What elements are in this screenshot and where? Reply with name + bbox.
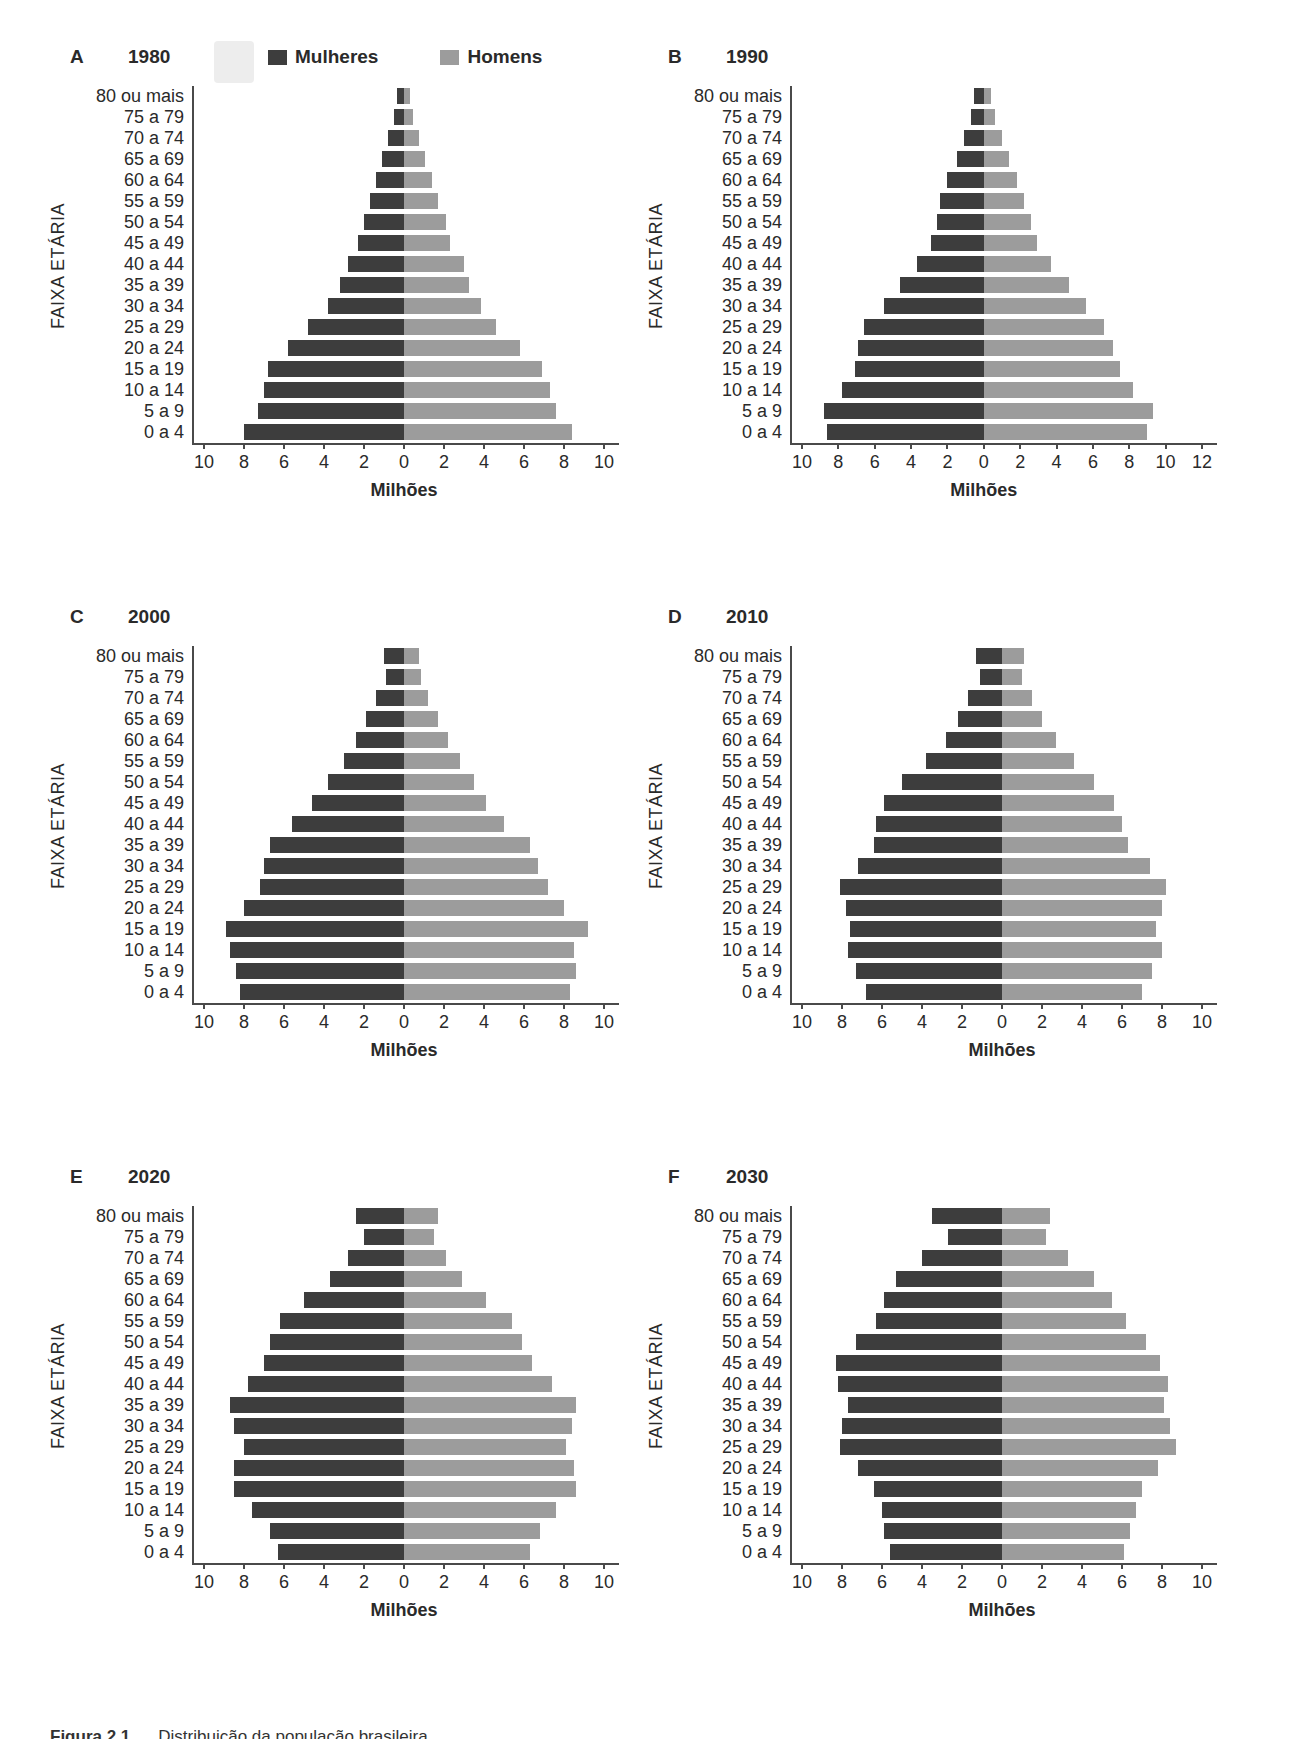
legend-swatch-mulheres: [268, 50, 287, 65]
female-bar: [340, 277, 404, 293]
age-tick-label: 55 a 59: [674, 751, 782, 772]
age-tick-label: 35 a 39: [76, 1395, 184, 1416]
x-tick-label: 2: [426, 1572, 462, 1593]
male-bar: [1002, 690, 1032, 706]
plot-area-E: 1086420246810Milhões: [192, 1206, 619, 1565]
female-bar: [864, 319, 984, 335]
x-tick: [1019, 443, 1021, 449]
x-tick: [921, 1003, 923, 1009]
male-bar: [404, 298, 481, 314]
age-tick-label: 75 a 79: [76, 667, 184, 688]
x-tick-label: 10: [586, 452, 622, 473]
x-tick-label: 2: [944, 1012, 980, 1033]
male-bar: [404, 382, 550, 398]
age-tick-label: 80 ou mais: [674, 86, 782, 107]
age-tick-label: 50 a 54: [76, 1332, 184, 1353]
female-bar: [226, 921, 404, 937]
x-tick: [1201, 443, 1203, 449]
age-tick-label: 60 a 64: [674, 730, 782, 751]
male-bar: [404, 1355, 532, 1371]
panel-year-E: 2020: [128, 1166, 198, 1188]
x-tick-label: 8: [226, 452, 262, 473]
x-tick-label: 6: [266, 1012, 302, 1033]
age-tick-label: 70 a 74: [674, 688, 782, 709]
age-tick-label: 10 a 14: [674, 940, 782, 961]
male-bar: [404, 1376, 552, 1392]
female-bar: [356, 1208, 404, 1224]
age-tick-label: 20 a 24: [76, 1458, 184, 1479]
age-tick-label: 60 a 64: [674, 170, 782, 191]
panel-year-F: 2030: [726, 1166, 796, 1188]
x-tick-label: 0: [386, 452, 422, 473]
x-tick: [1081, 1003, 1083, 1009]
x-tick: [1001, 1563, 1003, 1569]
x-tick: [363, 1003, 365, 1009]
age-tick-label: 45 a 49: [76, 233, 184, 254]
age-labels: 80 ou mais75 a 7970 a 7465 a 6960 a 6455…: [76, 646, 192, 1005]
x-tick-label: 8: [546, 1012, 582, 1033]
x-tick-label: 10: [1148, 452, 1184, 473]
age-tick-label: 60 a 64: [76, 1290, 184, 1311]
scan-artifact: [214, 41, 254, 83]
male-bar: [1002, 648, 1024, 664]
male-bar: [404, 879, 548, 895]
y-axis-title: FAIXA ETÁRIA: [646, 1322, 667, 1448]
male-bar: [984, 88, 991, 104]
x-tick-label: 10: [1184, 1012, 1220, 1033]
panel-A: A1980MulheresHomensFAIXA ETÁRIA80 ou mai…: [50, 42, 642, 548]
x-tick-label: 6: [864, 1572, 900, 1593]
age-tick-label: 65 a 69: [674, 149, 782, 170]
age-tick-label: 10 a 14: [76, 380, 184, 401]
age-tick-label: 5 a 9: [674, 401, 782, 422]
x-tick: [363, 1563, 365, 1569]
female-bar: [931, 235, 984, 251]
age-tick-label: 0 a 4: [76, 422, 184, 443]
male-bar: [404, 1418, 572, 1434]
panel-letter-D: D: [668, 606, 726, 628]
x-tick: [563, 1003, 565, 1009]
x-tick: [483, 1003, 485, 1009]
male-bar: [984, 277, 1069, 293]
female-bar: [234, 1481, 404, 1497]
male-bar: [1002, 1208, 1050, 1224]
female-bar: [356, 732, 404, 748]
male-bar: [404, 424, 572, 440]
female-bar: [252, 1502, 404, 1518]
age-tick-label: 25 a 29: [76, 317, 184, 338]
male-bar: [1002, 1250, 1068, 1266]
female-bar: [840, 879, 1002, 895]
male-bar: [404, 1208, 438, 1224]
female-bar: [234, 1418, 404, 1434]
male-bar: [404, 1397, 576, 1413]
female-bar: [976, 648, 1002, 664]
male-bar: [404, 753, 460, 769]
female-bar: [874, 1481, 1002, 1497]
female-bar: [947, 172, 983, 188]
female-bar: [364, 1229, 404, 1245]
x-tick-label: 8: [226, 1572, 262, 1593]
y-axis-title: FAIXA ETÁRIA: [48, 202, 69, 328]
x-tick-label: 4: [893, 452, 929, 473]
x-tick: [523, 1003, 525, 1009]
male-bar: [1002, 1544, 1124, 1560]
x-tick: [403, 1563, 405, 1569]
male-bar: [1002, 1229, 1046, 1245]
male-bar: [984, 109, 995, 125]
male-bar: [984, 214, 1031, 230]
female-bar: [840, 1439, 1002, 1455]
age-tick-label: 80 ou mais: [674, 646, 782, 667]
x-tick-label: 8: [1144, 1572, 1180, 1593]
panel-C-header: C2000: [50, 602, 642, 632]
x-tick-label: 2: [426, 1012, 462, 1033]
age-tick-label: 70 a 74: [76, 688, 184, 709]
age-tick-label: 30 a 34: [76, 856, 184, 877]
female-bar: [330, 1271, 404, 1287]
male-bar: [404, 648, 419, 664]
x-tick: [1121, 1563, 1123, 1569]
panel-letter-B: B: [668, 46, 726, 68]
age-tick-label: 60 a 64: [76, 170, 184, 191]
x-tick-label: 2: [944, 1572, 980, 1593]
female-bar: [270, 1334, 404, 1350]
x-tick-label: 6: [1104, 1572, 1140, 1593]
female-bar: [308, 319, 404, 335]
